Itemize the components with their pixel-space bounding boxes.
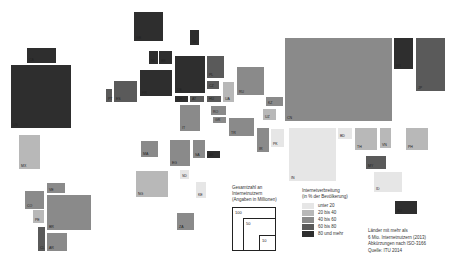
country-code-label: PH — [408, 146, 413, 150]
country-gb: GB — [133, 11, 164, 42]
country-code-label: KE — [198, 194, 203, 198]
country-code-label: GR — [215, 119, 220, 123]
country-code-label: IN — [291, 177, 295, 181]
country-code-label: SD — [182, 175, 187, 179]
color-legend-item: 60 bis 80 — [302, 223, 348, 230]
source-note: Länder mit mehr als 6 Mio. Internetnutze… — [368, 228, 426, 254]
country-code-label: PE — [35, 219, 40, 223]
country-code-label: ES — [116, 98, 121, 102]
country-cn: CN — [284, 37, 393, 122]
country-ar: AR — [46, 232, 68, 252]
country-hu: HU — [206, 95, 222, 103]
country-kr: KR — [393, 37, 414, 70]
country-code-label: UA — [225, 98, 230, 102]
country-code-label: PL — [209, 74, 213, 78]
country-code-label: KR — [396, 65, 401, 69]
country-it: IT — [179, 104, 201, 132]
color-legend-label: 60 bis 80 — [318, 224, 336, 230]
country-kz: KZ — [265, 96, 284, 107]
color-legend-item: 20 bis 40 — [302, 209, 348, 216]
country-code-label: AR — [49, 247, 54, 251]
country-ua: UA — [222, 81, 235, 103]
country-jp: JP — [415, 37, 446, 92]
note-line-4: Quelle: ITU 2014 — [368, 248, 426, 255]
country-code-label: VE — [49, 189, 54, 193]
country-code-label: RU — [239, 91, 244, 95]
country-cl: CL — [37, 226, 46, 252]
country-code-label: US — [13, 124, 18, 128]
country-code-label: EG — [172, 162, 177, 166]
size-legend-title-3: (Angaben in Millionen) — [232, 197, 277, 203]
country-code-label: KZ — [268, 102, 272, 106]
country-code-label: VN — [382, 144, 387, 148]
color-legend-label: 40 bis 60 — [318, 217, 336, 223]
country-ve: VE — [46, 182, 66, 194]
country-at: AT — [189, 95, 205, 103]
country-code-label: MA — [143, 153, 148, 157]
country-be: BE — [158, 50, 173, 65]
color-swatch — [302, 210, 314, 216]
country-code-label: AT — [192, 98, 196, 102]
country-ma: MA — [140, 140, 159, 158]
country-sa: SA — [192, 139, 206, 159]
country-za: ZA — [176, 212, 195, 231]
country-code-label: TR — [231, 132, 236, 136]
country-th: TH — [354, 127, 378, 151]
country-code-label: SE — [192, 41, 197, 45]
country-code-label: CH — [177, 98, 182, 102]
color-legend-item: 80 und mehr — [302, 230, 348, 237]
country-code-label: CA — [29, 59, 34, 63]
country-pt: PT — [105, 88, 113, 103]
color-legend-label: 20 bis 40 — [318, 210, 336, 216]
color-legend: Internetverbreitung (in % der Bevölkerun… — [302, 188, 348, 237]
country-code-label: PK — [273, 143, 278, 147]
country-ng: NG — [135, 170, 169, 198]
country-id: ID — [373, 171, 403, 193]
country-code-label: TH — [357, 146, 362, 150]
color-swatch — [302, 224, 314, 230]
country-pl: PL — [206, 55, 225, 79]
country-ca: CA — [26, 47, 57, 64]
country-code-label: JP — [418, 87, 422, 91]
country-au: AU — [394, 200, 418, 215]
country-cz: CZ — [206, 80, 220, 90]
note-line-3: Abkürzungen nach ISO-3166 — [368, 241, 426, 248]
country-code-label: ZA — [179, 226, 183, 230]
country-code-label: IR — [259, 148, 263, 152]
color-legend-label: 80 und mehr — [318, 231, 343, 237]
country-ch: CH — [174, 95, 189, 103]
country-my: MY — [365, 155, 387, 170]
country-pk: PK — [270, 128, 285, 148]
color-legend-item: 40 bis 60 — [302, 216, 348, 223]
country-sd: SD — [179, 169, 190, 180]
country-de: DE — [174, 55, 206, 94]
country-mx: MX — [18, 134, 41, 170]
country-code-label: MX — [21, 165, 26, 169]
color-swatch — [302, 203, 314, 209]
country-uz: UZ — [262, 108, 277, 121]
country-code-label: SA — [195, 154, 200, 158]
country-code-label: FR — [142, 92, 147, 96]
country-ro: RO — [210, 105, 227, 116]
country-ph: PH — [405, 127, 429, 151]
country-code-label: UZ — [265, 116, 270, 120]
country-code-label: RO — [213, 111, 218, 115]
country-ru: RU — [236, 66, 265, 96]
country-se: SE — [189, 29, 200, 46]
country-code-label: ID — [376, 188, 380, 192]
country-code-label: BR — [49, 226, 54, 230]
country-bd: BD — [337, 127, 353, 140]
country-code-label: CN — [287, 117, 292, 121]
country-code-label: NG — [138, 193, 143, 197]
country-code-label: PT — [108, 98, 112, 102]
country-es: ES — [113, 80, 138, 103]
country-ir: IR — [256, 127, 270, 153]
color-legend-label: unter 20 — [318, 203, 335, 209]
country-code-label: BE — [161, 60, 166, 64]
country-eg: EG — [169, 139, 191, 167]
color-legend-item: unter 20 — [302, 202, 348, 209]
country-ke: KE — [195, 181, 207, 199]
country-code-label: IT — [182, 127, 185, 131]
country-code-label: NL — [151, 60, 155, 64]
country-gr: GR — [212, 116, 227, 124]
